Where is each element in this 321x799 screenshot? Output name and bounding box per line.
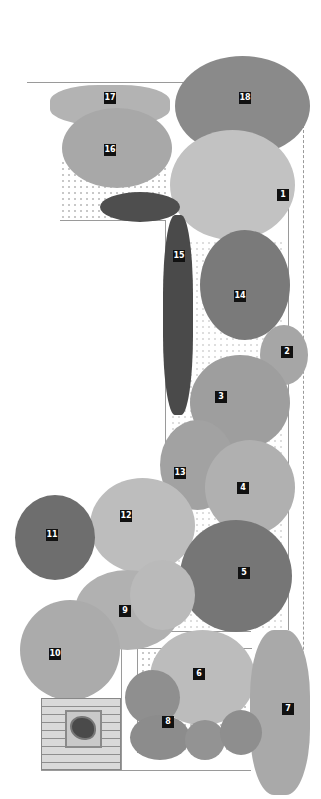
plant-label-2: 2 — [281, 346, 293, 358]
plant-1 — [170, 130, 295, 240]
plant-12 — [90, 478, 195, 573]
garden-plan: 1 2 3 4 5 6 7 8 9 10 11 12 13 14 15 16 1… — [0, 0, 321, 799]
plant-15 — [100, 192, 180, 222]
plant-label-16: 16 — [104, 144, 116, 156]
plant-label-18: 18 — [239, 92, 251, 104]
plant-15 — [163, 215, 193, 415]
plant-label-8: 8 — [162, 716, 174, 728]
plant-4 — [205, 440, 295, 535]
lower-bed-border — [121, 631, 122, 771]
plant-10 — [20, 600, 120, 700]
plant-label-11: 11 — [46, 529, 58, 541]
plant-label-5: 5 — [238, 567, 250, 579]
plant-label-9: 9 — [119, 605, 131, 617]
plant-label-3: 3 — [215, 391, 227, 403]
pond — [70, 716, 96, 740]
plant-8 — [220, 710, 262, 755]
plant-label-10: 10 — [49, 648, 61, 660]
plant-9b — [130, 560, 195, 630]
plant-7 — [250, 630, 310, 795]
plant-label-14: 14 — [234, 290, 246, 302]
plant-8 — [130, 715, 190, 760]
plant-label-7: 7 — [282, 703, 294, 715]
plant-8 — [185, 720, 225, 760]
plant-14 — [200, 230, 290, 340]
plant-16 — [62, 108, 172, 188]
plant-label-1: 1 — [277, 189, 289, 201]
plant-label-6: 6 — [193, 668, 205, 680]
plant-label-4: 4 — [237, 482, 249, 494]
plant-5 — [180, 520, 292, 632]
boundary-top-line — [27, 82, 187, 83]
plant-label-12: 12 — [120, 510, 132, 522]
plant-label-15: 15 — [173, 250, 185, 262]
plant-label-17: 17 — [104, 92, 116, 104]
lower-bed-bottom — [41, 770, 251, 771]
plant-label-13: 13 — [174, 467, 186, 479]
